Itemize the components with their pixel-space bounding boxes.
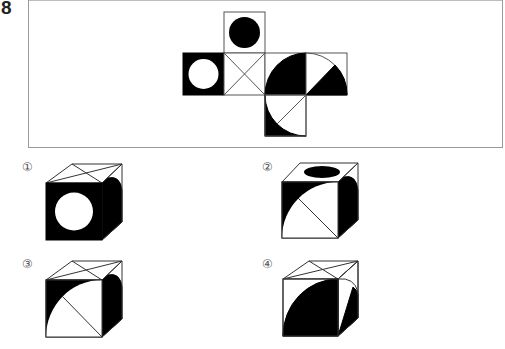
option-1-cube[interactable] xyxy=(46,164,122,240)
option-3-cube[interactable] xyxy=(46,261,122,337)
net-face-right2 xyxy=(306,53,347,95)
option-4-cube[interactable] xyxy=(283,261,358,336)
option-4-label[interactable]: ④ xyxy=(262,257,273,271)
option-2-cube[interactable] xyxy=(282,163,358,238)
net-face-right1 xyxy=(265,53,306,95)
net-face-center xyxy=(224,53,265,95)
net-face-top xyxy=(224,12,265,53)
option-2-label[interactable]: ② xyxy=(262,160,273,174)
net-face-left xyxy=(183,53,224,95)
cube-net xyxy=(0,0,505,349)
net-face-bottom xyxy=(265,95,306,136)
option-1-label[interactable]: ① xyxy=(22,160,33,174)
option-3-label[interactable]: ③ xyxy=(22,257,33,271)
